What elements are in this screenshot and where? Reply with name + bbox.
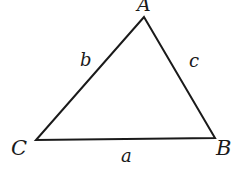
vertex-label-c: C — [11, 136, 27, 160]
vertex-label-b: B — [215, 136, 231, 160]
side-label-b: b — [80, 49, 92, 70]
triangle-svg: A C B b c a — [0, 0, 239, 178]
side-label-c: c — [189, 50, 199, 71]
side-label-a: a — [121, 145, 132, 166]
triangle-shape — [36, 17, 215, 140]
vertex-label-a: A — [135, 0, 151, 15]
triangle-diagram: A C B b c a — [0, 0, 239, 178]
